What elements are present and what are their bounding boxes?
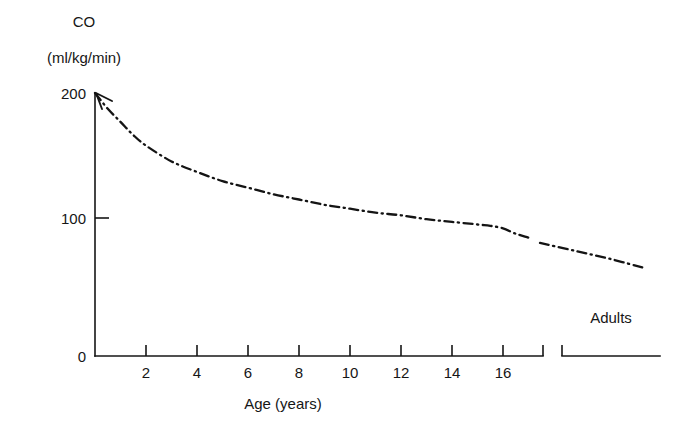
data-curve-children — [95, 93, 529, 238]
data-curve-adults — [540, 243, 644, 268]
y-axis-title: CO — [73, 13, 96, 30]
y-tick-label-0: 0 — [78, 348, 86, 365]
x-tick-label-4: 4 — [193, 364, 201, 381]
x-tick-label-16: 16 — [495, 364, 512, 381]
x-tick-label-10: 10 — [342, 364, 359, 381]
x-tick-label-2: 2 — [142, 364, 150, 381]
x-tick-label-8: 8 — [295, 364, 303, 381]
chart-figure: CO (ml/kg/min) 200 100 0 2 4 6 8 10 12 1… — [0, 0, 681, 427]
x-tick-label-12: 12 — [393, 364, 410, 381]
x-tick-label-6: 6 — [244, 364, 252, 381]
chart-canvas: CO (ml/kg/min) 200 100 0 2 4 6 8 10 12 1… — [0, 0, 681, 427]
y-tick-label-200: 200 — [61, 85, 86, 102]
curve-start-arrowhead — [96, 93, 112, 109]
adults-group-label: Adults — [590, 309, 632, 326]
x-axis-title: Age (years) — [244, 395, 322, 412]
y-tick-label-100: 100 — [61, 210, 86, 227]
y-axis-units: (ml/kg/min) — [47, 49, 121, 66]
x-tick-label-14: 14 — [444, 364, 461, 381]
